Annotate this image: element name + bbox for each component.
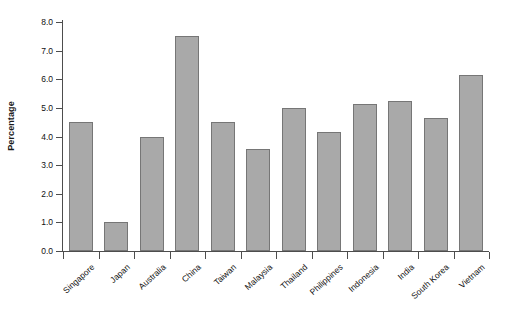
y-axis-tick	[56, 108, 63, 109]
bar	[69, 122, 93, 251]
bar	[459, 75, 483, 251]
x-axis-tick	[347, 252, 348, 259]
x-axis-label: Australia	[136, 262, 167, 292]
y-axis-tick	[56, 137, 63, 138]
y-axis-tick	[56, 51, 63, 52]
x-axis-label: Malaysia	[242, 262, 274, 292]
y-axis-tick-label: 2.0	[20, 189, 53, 199]
y-axis-title: Percentage	[0, 0, 22, 252]
y-axis-tick-label: 1.0	[20, 217, 53, 227]
y-axis-tick	[56, 165, 63, 166]
bar	[424, 118, 448, 251]
x-axis-tick	[63, 252, 64, 259]
bar	[388, 101, 412, 251]
y-axis-tick-label: 7.0	[20, 46, 53, 56]
bar	[317, 132, 341, 251]
x-axis-tick	[241, 252, 242, 259]
x-axis-label: Philippines	[308, 262, 345, 297]
x-axis-tick	[205, 252, 206, 259]
x-axis-label: Taiwan	[212, 262, 238, 287]
x-axis-label: Indonesia	[346, 262, 380, 294]
y-axis-tick	[56, 222, 63, 223]
bar	[282, 108, 306, 251]
x-axis-label: Singapore	[61, 262, 96, 295]
bar	[140, 137, 164, 252]
x-axis-tick	[418, 252, 419, 259]
bar	[104, 222, 128, 251]
x-axis-label: Japan	[108, 262, 132, 285]
x-axis-label: India	[396, 262, 416, 282]
x-axis-tick	[489, 252, 490, 259]
bar	[246, 149, 270, 251]
x-axis-label: Vietnam	[457, 262, 487, 290]
bar-chart: Percentage 0.01.02.03.04.05.06.07.08.0 S…	[0, 0, 508, 312]
bar	[211, 122, 235, 251]
bar	[175, 36, 199, 251]
y-axis-tick-label: 6.0	[20, 74, 53, 84]
x-axis-tick	[170, 252, 171, 259]
x-axis-label: China	[180, 262, 203, 284]
y-axis-tick	[56, 22, 63, 23]
y-axis-tick-label: 3.0	[20, 160, 53, 170]
x-axis-tick	[99, 252, 100, 259]
bar	[353, 104, 377, 251]
y-axis-tick	[56, 251, 63, 252]
x-axis-tick	[276, 252, 277, 259]
y-axis-tick	[56, 79, 63, 80]
x-axis-tick	[383, 252, 384, 259]
y-axis-tick	[56, 194, 63, 195]
x-axis-tick	[312, 252, 313, 259]
x-axis-label: Thailand	[279, 262, 310, 291]
y-axis-tick-label: 5.0	[20, 103, 53, 113]
x-axis-tick	[134, 252, 135, 259]
y-axis-tick-label: 0.0	[20, 246, 53, 256]
y-axis-tick-label: 4.0	[20, 132, 53, 142]
y-axis-title-label: Percentage	[6, 101, 16, 151]
x-axis-label: South Korea	[410, 262, 452, 301]
x-axis-tick	[454, 252, 455, 259]
y-axis-tick-label: 8.0	[20, 17, 53, 27]
